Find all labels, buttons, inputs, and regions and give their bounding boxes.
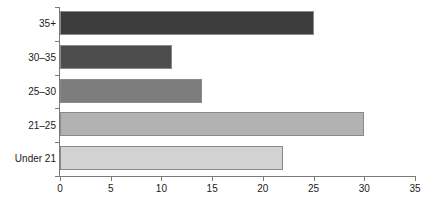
y-axis-label-3: 21–25 xyxy=(2,120,56,131)
x-tick-label: 10 xyxy=(156,183,167,195)
bar-row xyxy=(60,7,415,41)
bar-under-21 xyxy=(60,146,283,170)
x-tick-mark xyxy=(364,177,365,181)
bar-row xyxy=(60,142,415,176)
bar-30-35 xyxy=(60,45,172,69)
bar-chart: 35+ 30–35 25–30 21–25 Under 21 051015202… xyxy=(0,0,437,207)
x-tick-label: 5 xyxy=(108,183,114,195)
x-tick-label: 25 xyxy=(308,183,319,195)
bar-row xyxy=(60,75,415,109)
y-axis-label-1: 30–35 xyxy=(2,52,56,63)
bar-row xyxy=(60,108,415,142)
x-tick-label: 30 xyxy=(359,183,370,195)
x-tick-label: 0 xyxy=(57,183,63,195)
plot-area xyxy=(60,7,415,176)
x-tick-mark xyxy=(415,177,416,181)
x-tick-mark xyxy=(263,177,264,181)
x-tick-label: 15 xyxy=(207,183,218,195)
x-tick-mark xyxy=(161,177,162,181)
x-tick-mark xyxy=(212,177,213,181)
bar-35-plus xyxy=(60,11,314,35)
x-tick-mark xyxy=(314,177,315,181)
bar-row xyxy=(60,41,415,75)
bar-21-25 xyxy=(60,112,364,136)
y-axis-labels: 35+ 30–35 25–30 21–25 Under 21 xyxy=(0,7,56,176)
y-axis-label-4: Under 21 xyxy=(2,153,56,164)
x-tick-label: 35 xyxy=(409,183,420,195)
x-tick-mark xyxy=(111,177,112,181)
bar-25-30 xyxy=(60,79,202,103)
y-axis-label-2: 25–30 xyxy=(2,86,56,97)
x-axis-line xyxy=(59,176,416,177)
y-axis-label-0: 35+ xyxy=(2,18,56,29)
x-tick-mark xyxy=(60,177,61,181)
x-tick-label: 20 xyxy=(257,183,268,195)
